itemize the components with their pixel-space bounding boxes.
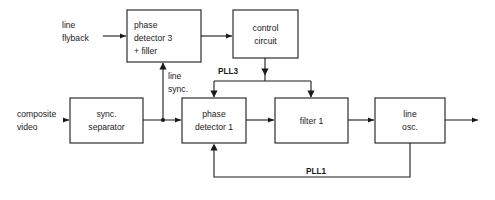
- block-phase-detector-3-line-2: detector 3: [134, 33, 172, 43]
- block-filter-1[interactable]: filter 1: [275, 98, 348, 143]
- label-line-sync-line-1: line: [168, 71, 182, 81]
- label-pll3: PLL3: [218, 67, 238, 76]
- block-diagram-canvas: phase detector 3 + filler control circui…: [0, 0, 495, 200]
- block-control-circuit-line-1: control: [253, 23, 279, 33]
- label-line-sync-line-2: sync.: [168, 84, 188, 94]
- label-line-flyback-line-1: line: [62, 20, 76, 30]
- block-phase-detector-1-line-1: phase: [202, 109, 226, 119]
- block-phase-detector-3-line-1: phase: [134, 20, 158, 30]
- block-sync-separator-line-1: sync.: [96, 109, 116, 119]
- block-sync-separator[interactable]: sync. separator: [70, 98, 143, 143]
- arrowhead-line-sync-to-phase-detector-3: [159, 63, 166, 70]
- label-line-flyback-line-2: flyback: [62, 33, 89, 43]
- label-composite-video-line-1: composite: [17, 109, 56, 119]
- label-composite-video-line-2: video: [17, 122, 38, 132]
- block-control-circuit-line-2: circuit: [254, 36, 277, 46]
- block-sync-separator-line-2: separator: [88, 122, 124, 132]
- block-line-osc-rect[interactable]: [375, 98, 445, 143]
- block-phase-detector-3-line-3: + filler: [134, 46, 157, 56]
- block-diagram-svg: phase detector 3 + filler control circui…: [0, 0, 495, 200]
- arrowhead-control-to-phase-detector-1: [210, 91, 217, 98]
- block-phase-detector-3[interactable]: phase detector 3 + filler: [127, 10, 201, 62]
- block-sync-separator-rect[interactable]: [70, 98, 143, 143]
- block-line-osc-line-1: line: [403, 109, 417, 119]
- block-phase-detector-1-rect[interactable]: [182, 98, 246, 143]
- block-line-osc[interactable]: line osc.: [375, 98, 445, 143]
- arrowhead-pll1-feedback: [210, 144, 217, 151]
- label-pll1: PLL1: [306, 167, 326, 176]
- block-control-circuit[interactable]: control circuit: [233, 10, 298, 58]
- block-phase-detector-1[interactable]: phase detector 1: [182, 98, 246, 143]
- block-filter-1-line-1: filter 1: [300, 116, 324, 126]
- block-phase-detector-1-line-2: detector 1: [195, 122, 233, 132]
- arrowhead-control-circuit-output: [261, 69, 268, 76]
- block-control-circuit-rect[interactable]: [233, 10, 298, 58]
- arrowhead-control-to-filter-1: [307, 91, 314, 98]
- block-line-osc-line-2: osc.: [402, 122, 418, 132]
